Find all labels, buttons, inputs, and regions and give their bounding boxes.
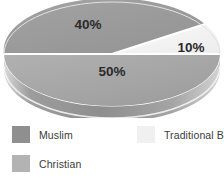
pie-chart-svg: 40% 50% 10% — [0, 0, 224, 118]
legend-swatch-muslim — [12, 126, 30, 143]
legend-swatch-traditional-beliefs — [137, 126, 155, 143]
pie-label-muslim: 40% — [74, 17, 101, 32]
legend-label-muslim: Muslim — [39, 129, 73, 141]
pie-chart-plot: 40% 50% 10% — [0, 0, 224, 118]
legend-label-christian: Christian — [39, 158, 81, 170]
legend-column-right: Traditional Beliefs — [137, 120, 224, 149]
pie-chart-figure: 40% 50% 10% Muslim Christian Traditional… — [0, 0, 224, 185]
legend-item-christian[interactable]: Christian — [12, 149, 81, 178]
legend-label-traditional-beliefs: Traditional Beliefs — [164, 129, 224, 141]
legend-item-traditional-beliefs[interactable]: Traditional Beliefs — [137, 120, 224, 149]
chart-legend: Muslim Christian Traditional Beliefs — [0, 120, 224, 185]
legend-swatch-christian — [12, 155, 30, 172]
legend-column-left: Muslim Christian — [12, 120, 81, 178]
pie-label-christian: 50% — [98, 64, 125, 79]
legend-item-muslim[interactable]: Muslim — [12, 120, 81, 149]
pie-label-traditional-beliefs: 10% — [177, 40, 204, 55]
